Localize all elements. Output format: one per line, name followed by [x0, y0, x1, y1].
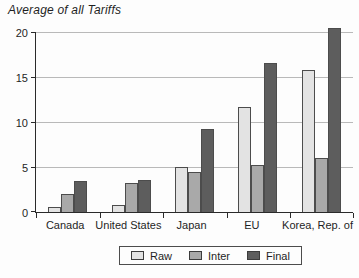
x-tick-5 [353, 213, 354, 218]
plot-area [35, 33, 353, 213]
legend-swatch-raw-icon [131, 251, 144, 260]
x-tick-4 [290, 213, 291, 218]
bar-group-korea-rep-of [290, 33, 353, 212]
x-axis-label-japan: Japan [161, 219, 221, 231]
y-axis-label-10: 10 [0, 117, 28, 129]
x-axis-label-eu: EU [222, 219, 282, 231]
bar-raw-4 [238, 107, 251, 212]
bar-raw-2 [112, 205, 125, 212]
legend-item-raw: Raw [131, 250, 172, 262]
y-tick-10 [31, 122, 36, 123]
y-axis-label-20: 20 [0, 27, 28, 39]
x-tick-1 [100, 213, 101, 218]
y-tick-5 [31, 167, 36, 168]
bar-final-4 [264, 63, 277, 212]
x-axis-label-korea-rep-of: Korea, Rep. of [282, 219, 353, 231]
bar-inter-4 [251, 165, 264, 212]
x-axis-label-united-states: United States [95, 219, 161, 231]
y-tick-20 [31, 32, 36, 33]
x-tick-3 [227, 213, 228, 218]
bar-final-3 [201, 129, 214, 212]
y-axis-label-0: 0 [0, 207, 28, 219]
y-tick-15 [31, 77, 36, 78]
legend-label-raw: Raw [150, 250, 172, 262]
legend-label-inter: Inter [208, 250, 230, 262]
x-tick-2 [163, 213, 164, 218]
x-axis-label-canada: Canada [35, 219, 95, 231]
bar-final-5 [328, 28, 341, 212]
legend-swatch-final-icon [247, 251, 260, 260]
bar-raw-1 [48, 207, 61, 212]
bar-group-japan [163, 33, 226, 212]
bar-group-eu [226, 33, 289, 212]
bar-group-canada [36, 33, 99, 212]
bar-raw-3 [175, 167, 188, 212]
bar-raw-5 [302, 70, 315, 212]
y-axis-labels: 05101520 [0, 33, 30, 213]
tariff-bar-chart: Average of all Tariffs 05101520 CanadaUn… [0, 0, 359, 278]
chart-title: Average of all Tariffs [8, 3, 121, 17]
bar-group-united-states [99, 33, 162, 212]
y-tick-0 [31, 211, 36, 212]
x-axis-labels: CanadaUnited StatesJapanEUKorea, Rep. of [35, 219, 353, 231]
y-axis-label-5: 5 [0, 162, 28, 174]
bar-groups [36, 33, 353, 212]
bar-inter-1 [61, 194, 74, 212]
legend-item-final: Final [247, 250, 290, 262]
legend: Raw Inter Final [119, 246, 302, 265]
x-tick-0 [36, 213, 37, 218]
bar-final-2 [138, 180, 151, 212]
bar-inter-2 [125, 183, 138, 212]
bar-inter-3 [188, 172, 201, 212]
legend-item-inter: Inter [189, 250, 230, 262]
legend-swatch-inter-icon [189, 251, 202, 260]
legend-label-final: Final [266, 250, 290, 262]
bar-final-1 [74, 181, 87, 213]
y-axis-label-15: 15 [0, 72, 28, 84]
bar-inter-5 [315, 158, 328, 212]
